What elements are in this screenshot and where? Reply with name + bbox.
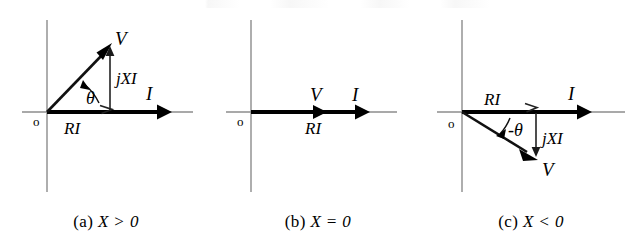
caption-a-prefix: (a)	[73, 212, 93, 231]
vector-i-arrowhead	[157, 105, 172, 120]
caption-panel-a: (a) X > 0	[0, 212, 212, 232]
caption-c-prefix: (c)	[498, 212, 518, 231]
panel-c-diagram: o V I RI jXI -θ	[424, 0, 638, 212]
label-ri: RI	[63, 119, 81, 138]
vector-i-arrowhead	[577, 105, 592, 120]
caption-a-math: X > 0	[98, 212, 139, 231]
vector-i-arrowhead	[355, 105, 370, 120]
label-jxi: jXI	[540, 129, 564, 148]
caption-panel-b: (b) X = 0	[212, 212, 424, 232]
vector-v-shaft	[47, 53, 104, 112]
label-ri: RI	[304, 119, 322, 138]
vector-v-arrowhead	[313, 105, 327, 119]
label-v: V	[310, 84, 324, 105]
label-theta: θ	[86, 88, 95, 108]
panel-b-diagram: o V I RI	[212, 0, 424, 212]
label-i: I	[145, 83, 154, 104]
origin-label: o	[33, 114, 40, 129]
caption-b-prefix: (b)	[285, 212, 306, 231]
label-v: V	[115, 28, 129, 49]
label-i: I	[351, 84, 360, 105]
origin-label: o	[237, 114, 244, 129]
panel-a: o V I RI jXI θ (a) X > 0	[0, 0, 212, 252]
panel-c: o V I RI jXI -θ (c) X < 0	[424, 0, 638, 252]
label-theta: -θ	[508, 120, 523, 140]
panel-a-diagram: o V I RI jXI θ	[0, 0, 212, 212]
phasor-figure: o V I RI jXI θ (a) X > 0 o V I RI	[0, 0, 638, 252]
caption-b-math: X = 0	[310, 212, 351, 231]
origin-label: o	[448, 116, 455, 131]
label-i: I	[567, 83, 576, 104]
caption-c-math: X < 0	[523, 212, 564, 231]
panel-b: o V I RI (b) X = 0	[212, 0, 424, 252]
label-v: V	[542, 159, 556, 180]
label-jxi: jXI	[114, 69, 138, 88]
caption-panel-c: (c) X < 0	[424, 212, 638, 232]
label-ri: RI	[483, 90, 501, 109]
vector-jxi-arrowhead	[532, 147, 541, 157]
